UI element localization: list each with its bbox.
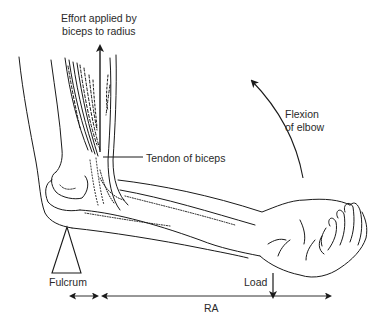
tendon-label: Tendon of biceps (146, 152, 225, 165)
upper-arm-back-contour (19, 57, 72, 228)
effort-label: Effort applied by biceps to radius (61, 12, 137, 37)
flexion-label-line2: of elbow (285, 121, 324, 134)
flexion-label: Flexion of elbow (285, 108, 324, 133)
forearm-top-contour (118, 180, 350, 212)
lever-diagram: Effort applied by biceps to radius Flexi… (0, 0, 384, 325)
resistance-arm-label: RA (204, 302, 219, 315)
flexion-label-line1: Flexion (285, 108, 324, 121)
load-label: Load (244, 276, 267, 289)
fulcrum-label: Fulcrum (49, 276, 87, 289)
effort-label-line2: biceps to radius (61, 25, 137, 38)
fulcrum-triangle-icon (52, 227, 81, 273)
hand-contour (260, 212, 367, 277)
effort-label-line1: Effort applied by (61, 12, 137, 25)
